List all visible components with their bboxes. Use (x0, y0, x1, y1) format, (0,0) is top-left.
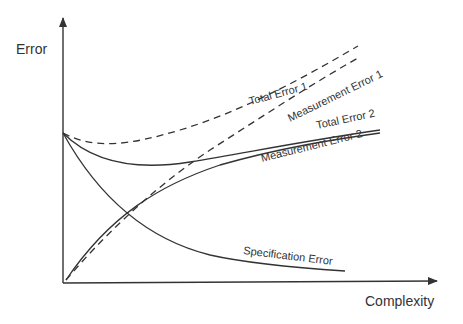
curve-measurement-error-1 (66, 58, 358, 280)
label-specification-error: Specification Error (243, 244, 334, 267)
x-axis-label: Complexity (365, 293, 434, 309)
label-measurement-error-2: Measurement Error 2 (260, 127, 364, 164)
x-axis (63, 281, 437, 283)
error-complexity-diagram: Error Complexity Total Error 1 Measureme… (0, 0, 463, 324)
diagram-canvas: Error Complexity Total Error 1 Measureme… (0, 0, 463, 324)
curve-total-error-1 (63, 46, 358, 144)
label-total-error-1: Total Error 1 (247, 80, 308, 107)
label-total-error-2: Total Error 2 (315, 107, 376, 131)
y-axis-label: Error (16, 41, 47, 57)
